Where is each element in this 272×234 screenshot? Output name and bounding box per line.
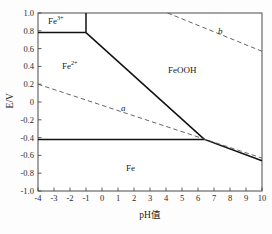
region-label-fe3plus-base: Fe — [48, 16, 57, 26]
curve-label-b: b — [218, 27, 223, 36]
y-tick-label-9: -0.8 — [8, 169, 34, 178]
y-tick-label-8: -0.6 — [8, 151, 34, 160]
region-label-fe3plus: Fe3+ — [48, 17, 64, 26]
region-label-fe2plus-charge: 2+ — [71, 59, 78, 66]
region-label-feooh: FeOOH — [168, 66, 197, 75]
y-tick-label-0: 1.0 — [8, 9, 34, 18]
y-tick-label-1: 0.8 — [8, 27, 34, 36]
region-label-fe2plus-base: Fe — [62, 61, 71, 71]
plot-frame — [38, 13, 262, 191]
region-label-fe: Fe — [126, 164, 135, 173]
x-tick-label-14: 10 — [252, 194, 272, 203]
region-label-fe2plus: Fe2+ — [62, 62, 78, 71]
y-axis-title: E/V — [6, 81, 16, 121]
region-label-fe3plus-charge: 3+ — [57, 14, 64, 21]
pourbaix-diagram-figure: 1.0 0.8 0.6 0.4 0.2 0 -0.2 -0.4 -0.6 -0.… — [0, 0, 272, 234]
x-axis-title: pH值 — [110, 211, 190, 221]
y-tick-label-2: 0.6 — [8, 45, 34, 54]
curve-label-a: a — [121, 104, 126, 113]
y-tick-label-3: 0.4 — [8, 62, 34, 71]
y-tick-label-7: -0.4 — [8, 134, 34, 143]
